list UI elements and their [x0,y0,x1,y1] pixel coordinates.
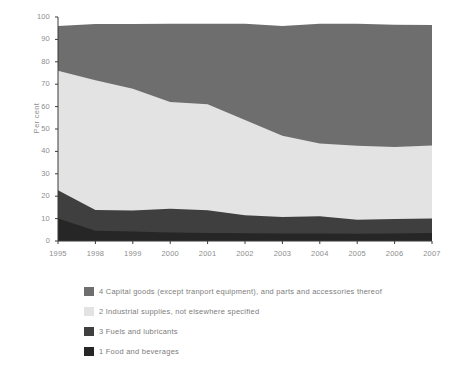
y-tick-label: 60 [28,102,50,111]
x-tick-label: 2007 [417,249,447,258]
y-tick-label: 30 [28,169,50,178]
chart-legend: 4 Capital goods (except tranport equipme… [84,281,444,361]
x-tick-label: 1998 [80,249,110,258]
x-tick-label: 2001 [193,249,223,258]
y-tick-label: 0 [28,236,50,245]
legend-item[interactable]: 4 Capital goods (except tranport equipme… [84,281,444,301]
x-tick-label: 1995 [43,249,73,258]
chart-container: Per cent 1009080706050403020100 19951998… [0,0,453,374]
legend-item[interactable]: 2 Industrial supplies, not elsewhere spe… [84,301,444,321]
y-tick-label: 10 [28,214,50,223]
x-tick-label: 2005 [342,249,372,258]
x-tick-label: 2000 [155,249,185,258]
legend-item[interactable]: 3 Fuels and lubricants [84,321,444,341]
legend-item-label: 1 Food and beverages [99,347,179,356]
y-tick-label: 50 [28,124,50,133]
legend-swatch-industrial-supplies [84,307,94,316]
y-tick-label: 80 [28,57,50,66]
x-tick-label: 2006 [380,249,410,258]
x-tick-label: 1999 [118,249,148,258]
legend-item[interactable]: 1 Food and beverages [84,341,444,361]
legend-item-label: 4 Capital goods (except tranport equipme… [99,287,382,296]
x-tick-label: 2003 [267,249,297,258]
legend-swatch-fuels-lubricants [84,327,94,336]
legend-swatch-capital-goods [84,287,94,296]
y-tick-label: 100 [28,12,50,21]
legend-item-label: 3 Fuels and lubricants [99,327,178,336]
legend-swatch-food-beverages [84,347,94,356]
y-tick-label: 90 [28,34,50,43]
x-tick-label: 2004 [305,249,335,258]
y-tick-label: 20 [28,191,50,200]
y-tick-label: 40 [28,146,50,155]
legend-item-label: 2 Industrial supplies, not elsewhere spe… [99,307,259,316]
x-tick-label: 2002 [230,249,260,258]
y-tick-label: 70 [28,79,50,88]
